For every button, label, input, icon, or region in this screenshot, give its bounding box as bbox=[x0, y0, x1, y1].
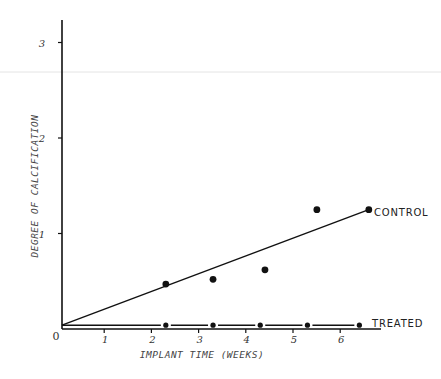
control-series-label: CONTROL bbox=[374, 207, 428, 218]
treated-point-marker bbox=[258, 323, 263, 328]
y-axis-title: DEGREE OF CALCIFICATION bbox=[29, 114, 40, 258]
calcification-chart: 123456123 DEGREE OF CALCIFICATION IMPLAN… bbox=[0, 0, 441, 379]
control-point-marker bbox=[313, 206, 320, 213]
treated-series-label: TREATED bbox=[371, 318, 423, 329]
y-tick-label: 3 bbox=[39, 38, 45, 49]
series bbox=[62, 206, 372, 328]
x-tick-label: 6 bbox=[338, 334, 345, 345]
ticks: 123456123 bbox=[38, 38, 345, 346]
treated-point-marker bbox=[210, 323, 215, 328]
x-tick-label: 5 bbox=[291, 334, 297, 345]
origin-label: 0 bbox=[53, 330, 60, 343]
treated-point-marker bbox=[163, 323, 168, 328]
control-point-marker bbox=[262, 266, 269, 273]
treated-point-marker bbox=[357, 323, 362, 328]
control-fit-line bbox=[62, 210, 369, 326]
x-tick-label: 4 bbox=[243, 334, 250, 345]
x-tick-label: 3 bbox=[196, 334, 202, 345]
control-point-marker bbox=[162, 281, 169, 288]
control-point-marker bbox=[210, 276, 217, 283]
control-point-marker bbox=[365, 206, 372, 213]
axes bbox=[62, 20, 381, 329]
x-tick-label: 1 bbox=[102, 334, 108, 345]
x-tick-label: 2 bbox=[148, 334, 155, 345]
x-axis-title: IMPLANT TIME (WEEKS) bbox=[140, 349, 264, 360]
treated-point-marker bbox=[305, 323, 310, 328]
